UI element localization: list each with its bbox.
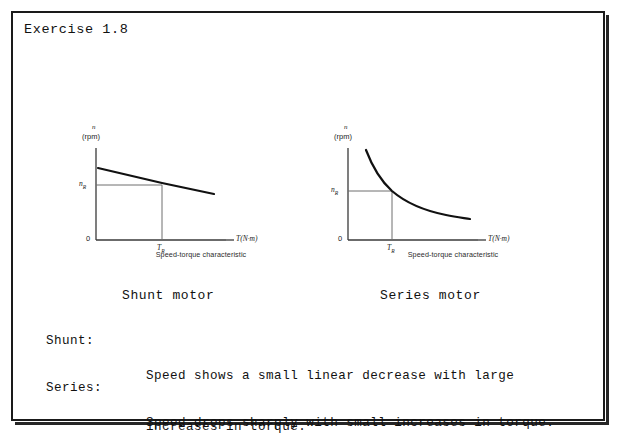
- description-shunt: Shunt: Speed shows a small linear decrea…: [0, 334, 617, 376]
- origin-label: 0: [86, 234, 90, 243]
- figure-caption: Speed-torque characteristic: [62, 250, 306, 259]
- rated-speed-label: nR: [79, 179, 86, 190]
- y-axis-unit: (rpm): [82, 132, 100, 141]
- figure-shunt-motor: n (rpm) nR 0 TR T(N·m) Speed-torque char…: [62, 126, 272, 274]
- speed-torque-curve: [98, 168, 214, 194]
- description-series: Series: Speed drops sharply with small i…: [0, 381, 617, 423]
- y-axis-symbol: n: [92, 123, 96, 131]
- x-axis-label: T(N·m): [236, 234, 257, 243]
- motor-label-shunt: Shunt motor: [122, 288, 214, 303]
- origin-label: 0: [338, 234, 342, 243]
- rated-speed-label: nR: [331, 185, 338, 196]
- figure-series-motor: n (rpm) nR 0 TR T(N·m) Speed-torque char…: [322, 126, 532, 274]
- y-axis-unit: (rpm): [334, 132, 352, 141]
- figure-caption: Speed-torque characteristic: [322, 250, 558, 259]
- description-term-shunt: Shunt:: [46, 334, 94, 348]
- x-axis-label: T(N·m): [488, 234, 509, 243]
- speed-torque-curve: [366, 150, 470, 219]
- rated-speed-subscript: R: [83, 184, 86, 190]
- page-title: Exercise 1.8: [24, 22, 128, 37]
- description-line-1: Speed drops sharply with small increases…: [146, 415, 554, 432]
- rated-speed-subscript: R: [335, 190, 338, 196]
- motor-label-series: Series motor: [380, 288, 481, 303]
- description-term-series: Series:: [46, 381, 102, 395]
- y-axis-symbol: n: [344, 123, 348, 131]
- description-body-series: Speed drops sharply with small increases…: [146, 381, 554, 434]
